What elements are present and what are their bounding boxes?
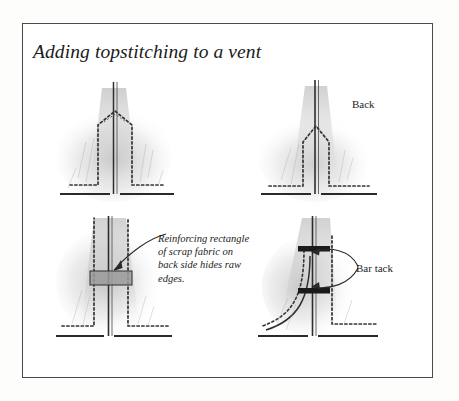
label-bar-tack: Bar tack [356,262,393,274]
caption-reinforcing-rectangle: Reinforcing rectangle of scrap fabric on… [158,232,254,285]
bar-tack-lower [298,288,330,294]
reinforcing-rectangle [90,271,132,285]
figure-vent-with-bar-tacks [252,216,402,350]
illustration-page: Adding topstitching to a vent [0,0,459,401]
figure-vent-with-topstitching-front [42,78,192,210]
label-back: Back [352,98,375,110]
bar-tack-upper [298,246,330,252]
page-title: Adding topstitching to a vent [33,41,261,63]
